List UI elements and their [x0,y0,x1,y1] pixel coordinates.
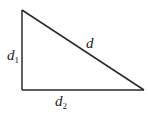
label-d2-subscript: 2 [63,101,68,111]
label-d2: d 2 [55,93,67,111]
label-hypotenuse: d [86,35,94,51]
right-triangle-diagram: d 1 d 2 d [0,0,148,115]
label-d1-subscript: 1 [15,55,20,65]
triangle [22,10,144,90]
hypotenuse-d [22,10,144,90]
label-d: d [86,35,94,51]
label-d1: d 1 [7,47,19,65]
